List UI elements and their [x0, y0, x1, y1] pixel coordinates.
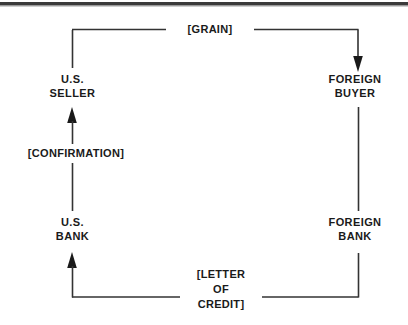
node-foreign-bank-line2: BANK [305, 229, 405, 243]
node-us-bank-line2: BANK [20, 229, 125, 243]
node-us-bank-line1: U.S. [20, 215, 125, 229]
node-foreign-buyer-line2: BUYER [305, 86, 405, 100]
node-foreign-buyer: FOREIGN BUYER [305, 72, 405, 100]
node-foreign-bank-line1: FOREIGN [305, 215, 405, 229]
node-foreign-buyer-line1: FOREIGN [305, 72, 405, 86]
node-us-seller-line2: SELLER [20, 86, 125, 100]
arrowhead-letter-of-credit-up-icon [67, 252, 77, 268]
node-us-bank: U.S. BANK [20, 215, 125, 243]
arrowhead-grain-down-icon [353, 56, 363, 72]
flow-label-loc-line1: [LETTER [187, 267, 255, 282]
node-us-seller: U.S. SELLER [20, 72, 125, 100]
diagram-page: U.S. SELLER FOREIGN BUYER U.S. BANK FORE… [0, 0, 408, 325]
flow-label-confirmation: [CONFIRMATION] [8, 144, 144, 163]
arrowhead-confirmation-up-icon [67, 107, 77, 123]
node-us-seller-line1: U.S. [20, 72, 125, 86]
flow-label-grain: [GRAIN] [166, 22, 254, 37]
node-foreign-bank: FOREIGN BANK [305, 215, 405, 243]
flow-label-loc-line3: CREDIT] [187, 297, 255, 312]
flow-label-letter-of-credit: [LETTER OF CREDIT] [180, 267, 262, 312]
flow-label-loc-line2: OF [187, 282, 255, 297]
